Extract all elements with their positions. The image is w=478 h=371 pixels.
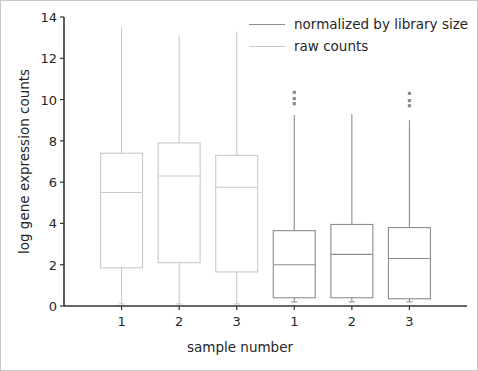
boxplot-box: [216, 31, 258, 303]
y-tick-label: 8: [25, 133, 57, 148]
legend-line-normalized: [249, 24, 285, 25]
boxplot-box: [273, 91, 315, 302]
legend: normalized by library size raw counts: [249, 15, 468, 55]
legend-item-raw-counts: raw counts: [249, 37, 468, 55]
y-tick-label: 10: [25, 92, 57, 107]
y-tick-label: 6: [25, 175, 57, 190]
x-tick-label: 2: [175, 314, 183, 329]
y-tick-label: 4: [25, 216, 57, 231]
legend-item-normalized: normalized by library size: [249, 15, 468, 33]
legend-line-raw-counts: [249, 46, 285, 47]
y-tick-label: 0: [25, 299, 57, 314]
x-tick-label: 3: [233, 314, 241, 329]
x-tick-label: 3: [405, 314, 413, 329]
x-tick-label: 1: [117, 314, 125, 329]
boxplot-box: [158, 36, 200, 304]
y-tick-label: 12: [25, 51, 57, 66]
x-tick-label: 2: [348, 314, 356, 329]
legend-label-raw-counts: raw counts: [294, 38, 368, 54]
boxplot-box: [388, 92, 430, 302]
legend-label-normalized: normalized by library size: [294, 16, 468, 32]
boxplot-box: [331, 114, 373, 302]
y-tick-label: 2: [25, 257, 57, 272]
boxplot-figure: log gene expression counts sample number…: [0, 0, 478, 371]
y-tick-label: 14: [25, 10, 57, 25]
x-tick-label: 1: [290, 314, 298, 329]
x-axis-label: sample number: [1, 339, 478, 355]
boxplot-box: [101, 27, 143, 304]
